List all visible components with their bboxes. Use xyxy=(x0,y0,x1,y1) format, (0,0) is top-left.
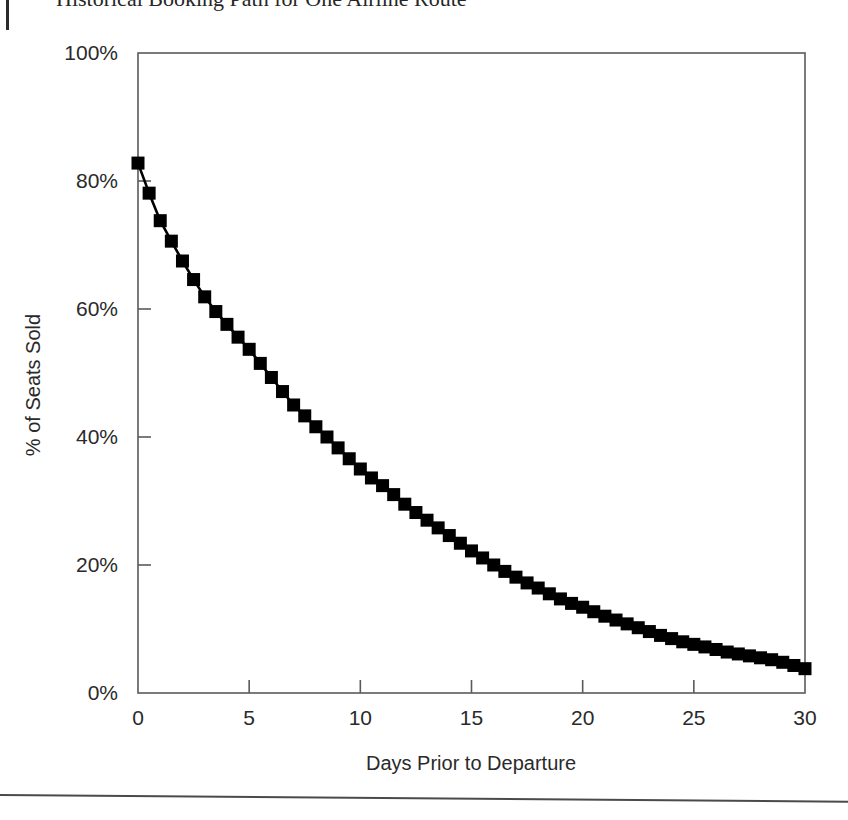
data-point-marker xyxy=(443,529,456,542)
y-tick-label: 100% xyxy=(64,41,118,64)
data-point-marker xyxy=(610,614,623,627)
series-line-cumulative-bookings xyxy=(138,163,805,669)
data-point-marker xyxy=(765,653,778,666)
data-point-marker xyxy=(154,214,167,227)
data-point-marker xyxy=(498,565,511,578)
data-point-marker xyxy=(243,343,256,356)
series-markers xyxy=(132,157,812,676)
data-point-marker xyxy=(354,463,367,476)
data-point-marker xyxy=(165,235,178,248)
data-point-marker xyxy=(799,662,812,675)
y-tick-label: 20% xyxy=(76,553,118,576)
data-point-marker xyxy=(276,385,289,398)
data-point-marker xyxy=(198,290,211,303)
data-point-marker xyxy=(776,656,789,669)
x-tick-label: 30 xyxy=(793,706,816,729)
data-point-marker xyxy=(643,625,656,638)
y-axis-title: % of Seats Sold xyxy=(22,314,44,456)
data-point-marker xyxy=(232,331,245,344)
data-point-marker xyxy=(732,647,745,660)
x-axis-title: Days Prior to Departure xyxy=(366,752,576,774)
data-point-marker xyxy=(687,638,700,651)
data-point-marker xyxy=(521,576,534,589)
data-point-marker xyxy=(365,471,378,484)
data-point-marker xyxy=(532,582,545,595)
data-point-marker xyxy=(621,617,634,630)
data-point-marker xyxy=(654,629,667,642)
x-tick-label: 25 xyxy=(682,706,705,729)
data-point-marker xyxy=(176,255,189,268)
data-point-marker xyxy=(254,357,267,370)
data-point-marker xyxy=(143,187,156,200)
data-point-marker xyxy=(554,592,567,605)
data-point-marker xyxy=(698,640,711,653)
document-page: Historical Booking Path for One Airline … xyxy=(0,0,848,820)
data-point-marker xyxy=(187,273,200,286)
data-point-marker xyxy=(298,409,311,422)
x-tick-label: 20 xyxy=(571,706,594,729)
y-tick-label: 40% xyxy=(76,425,118,448)
data-point-marker xyxy=(565,597,578,610)
data-point-marker xyxy=(721,646,734,659)
data-point-marker xyxy=(676,635,689,648)
data-point-marker xyxy=(476,551,489,564)
data-point-marker xyxy=(287,399,300,412)
y-tick-label: 60% xyxy=(76,297,118,320)
x-axis-tick-labels: 051015202530 xyxy=(132,706,817,729)
data-point-marker xyxy=(432,521,445,534)
y-tick-label: 80% xyxy=(76,169,118,192)
data-point-marker xyxy=(265,371,278,384)
x-tick-label: 0 xyxy=(132,706,144,729)
chart-canvas: 0%20%40%60%80%100% 051015202530 % of Sea… xyxy=(0,0,848,800)
data-point-marker xyxy=(465,544,478,557)
data-point-marker xyxy=(332,441,345,454)
data-point-marker xyxy=(587,605,600,618)
y-axis-tick-labels: 0%20%40%60%80%100% xyxy=(64,41,118,704)
data-point-marker xyxy=(421,514,434,527)
data-point-marker xyxy=(454,537,467,550)
data-point-marker xyxy=(387,488,400,501)
data-point-marker xyxy=(509,571,522,584)
data-point-marker xyxy=(754,651,767,664)
data-point-marker xyxy=(209,305,222,318)
data-point-marker xyxy=(598,610,611,623)
x-tick-label: 10 xyxy=(349,706,372,729)
data-point-marker xyxy=(543,587,556,600)
data-point-marker xyxy=(632,621,645,634)
data-point-marker xyxy=(665,632,678,645)
data-point-marker xyxy=(309,420,322,433)
data-point-marker xyxy=(487,559,500,572)
data-point-marker xyxy=(787,659,800,672)
data-point-marker xyxy=(398,498,411,511)
x-tick-label: 15 xyxy=(460,706,483,729)
data-point-marker xyxy=(409,506,422,519)
data-point-marker xyxy=(343,452,356,465)
y-tick-label: 0% xyxy=(88,681,118,704)
data-point-marker xyxy=(576,601,589,614)
x-tick-label: 5 xyxy=(243,706,255,729)
data-point-marker xyxy=(220,318,233,331)
data-point-marker xyxy=(376,479,389,492)
line-chart: 0%20%40%60%80%100% 051015202530 % of Sea… xyxy=(0,0,848,800)
data-point-marker xyxy=(743,649,756,662)
data-point-marker xyxy=(710,643,723,656)
plot-frame xyxy=(138,53,805,693)
data-point-marker xyxy=(320,431,333,444)
data-point-marker xyxy=(132,157,145,170)
